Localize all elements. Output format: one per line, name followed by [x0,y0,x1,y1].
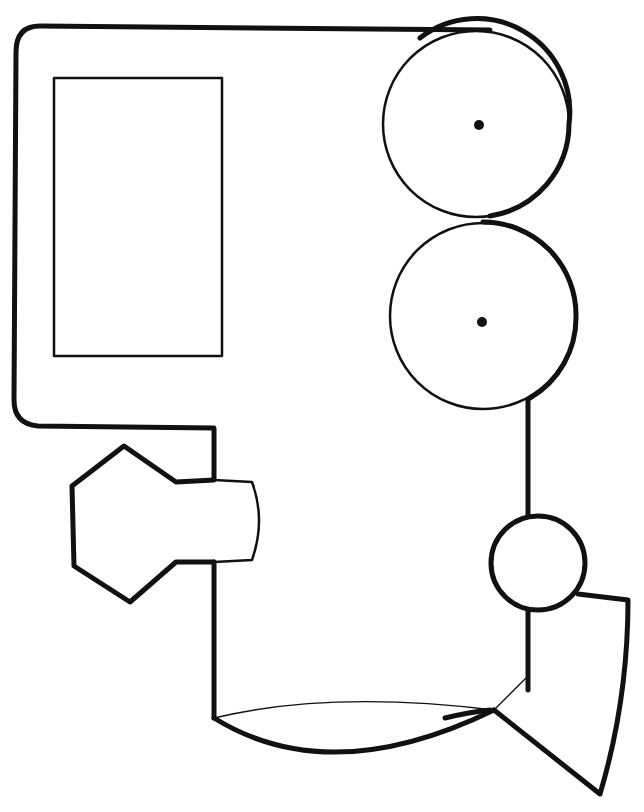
coupler-hexagon [72,446,214,602]
cowcatcher [494,594,628,794]
cowcatcher-inner-line [494,612,528,710]
coupler-stem [214,480,259,562]
headlight [491,516,585,610]
cab-window [54,78,222,356]
wheel-top-axle-icon [474,120,484,130]
train-drawing [0,0,644,812]
wheel-bottom-axle-icon [477,317,487,327]
